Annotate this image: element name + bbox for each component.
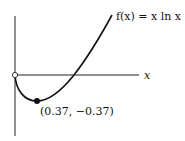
function-label: f(x) = x ln x xyxy=(116,10,182,23)
open-circle-origin xyxy=(12,72,17,77)
plot: x f(x) = x ln x (0.37, −0.37) xyxy=(0,0,185,141)
x-axis-label: x xyxy=(144,69,151,82)
min-point-label: (0.37, −0.37) xyxy=(40,105,114,118)
minimum-point xyxy=(34,98,40,104)
curve xyxy=(15,15,112,101)
